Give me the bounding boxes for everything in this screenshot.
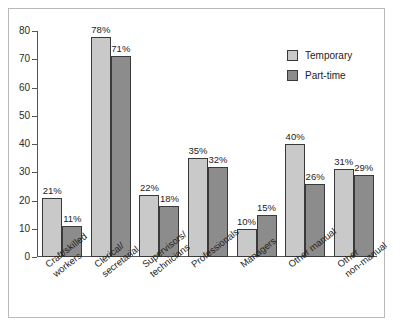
bar-value-label: 11%	[59, 213, 85, 224]
bar-group: 22%18%	[135, 31, 184, 257]
legend-swatch-icon	[287, 70, 298, 81]
bar-temporary[interactable]	[91, 37, 111, 257]
y-tick-mark	[32, 257, 37, 258]
y-tick-mark	[32, 201, 37, 202]
bar-value-label: 26%	[302, 171, 328, 182]
bar-value-label: 21%	[39, 185, 65, 196]
legend-swatch-icon	[287, 50, 298, 61]
y-tick-label: 40	[19, 137, 30, 150]
bar-group: 10%15%	[232, 31, 281, 257]
bar-value-label: 18%	[156, 193, 182, 204]
y-tick-mark	[32, 88, 37, 89]
bar-temporary[interactable]	[334, 169, 354, 257]
y-tick-label: 0	[24, 250, 30, 263]
bar-group: 35%32%	[184, 31, 233, 257]
chart-frame: 01020304050607080 21%11%78%71%22%18%35%3…	[8, 8, 385, 318]
y-tick-mark	[32, 31, 37, 32]
y-tick-mark	[32, 172, 37, 173]
y-tick-label: 80	[19, 24, 30, 37]
y-tick-label: 50	[19, 109, 30, 122]
bar-value-label: 78%	[88, 24, 114, 35]
bar-value-label: 71%	[108, 43, 134, 54]
bar-group: 21%11%	[38, 31, 87, 257]
bar-value-label: 29%	[351, 162, 377, 173]
y-tick-label: 20	[19, 194, 30, 207]
y-tick-mark	[32, 144, 37, 145]
y-tick-label: 60	[19, 81, 30, 94]
y-tick-label: 70	[19, 52, 30, 65]
bar-value-label: 22%	[136, 182, 162, 193]
bar-value-label: 40%	[282, 131, 308, 142]
legend-label: Part-time	[305, 70, 346, 82]
y-tick-mark	[32, 229, 37, 230]
category-axis-labels: Craft/skilled workersClerical/ secretari…	[37, 259, 385, 321]
chart-legend: TemporaryPart-time	[287, 49, 387, 89]
legend-item[interactable]: Temporary	[287, 49, 387, 62]
y-tick-mark	[32, 59, 37, 60]
legend-label: Temporary	[305, 50, 352, 62]
y-tick-mark	[32, 116, 37, 117]
bar-value-label: 32%	[205, 154, 231, 165]
bar-temporary[interactable]	[285, 144, 305, 257]
bar-group: 78%71%	[87, 31, 136, 257]
bar-value-label: 15%	[254, 202, 280, 213]
y-tick-label: 10	[19, 222, 30, 235]
y-tick-label: 30	[19, 165, 30, 178]
bar-parttime[interactable]	[111, 56, 131, 257]
legend-item[interactable]: Part-time	[287, 69, 387, 82]
